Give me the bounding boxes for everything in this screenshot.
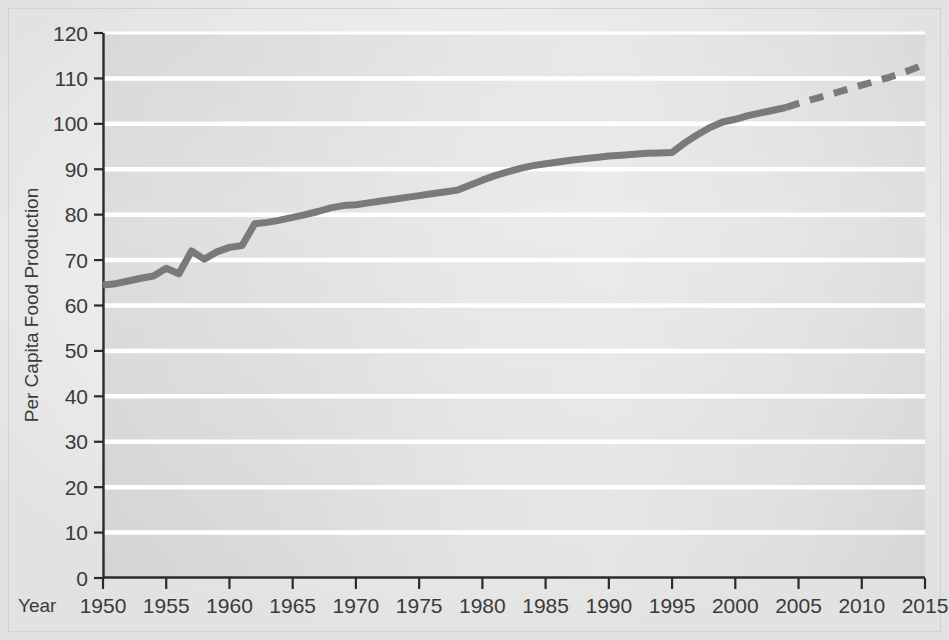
y-axis-tick-label: 120 [53, 22, 88, 45]
x-axis-tick-label: 1990 [585, 594, 632, 617]
x-axis-caption: Year [18, 595, 57, 616]
x-axis-tick-label: 1955 [143, 594, 190, 617]
y-axis-tick-label: 100 [53, 112, 88, 135]
x-axis-tick-label: 2005 [775, 594, 822, 617]
y-axis-tick-label: 30 [65, 430, 88, 453]
y-axis-tick-label: 70 [65, 249, 88, 272]
x-axis-tick-label: 2000 [712, 594, 759, 617]
y-axis-tick-label: 0 [76, 567, 88, 590]
y-axis-tick-label: 40 [65, 385, 88, 408]
y-axis-tick-label: 80 [65, 203, 88, 226]
x-axis-tick-label: 1975 [396, 594, 443, 617]
x-axis-ticks [103, 578, 925, 589]
y-axis-ticks [94, 33, 103, 578]
x-axis-tick-label: 1980 [459, 594, 506, 617]
y-axis-tick-labels: 0102030405060708090100110120 [53, 22, 88, 590]
x-axis-tick-label: 1995 [649, 594, 696, 617]
line-chart: 0102030405060708090100110120 19501955196… [0, 0, 949, 640]
y-axis-tick-label: 50 [65, 339, 88, 362]
y-axis-tick-label: 90 [65, 158, 88, 181]
x-axis-tick-label: 1965 [269, 594, 316, 617]
x-axis-tick-label: 1950 [80, 594, 127, 617]
y-axis-tick-label: 110 [55, 67, 88, 90]
y-axis-tick-label: 20 [65, 476, 88, 499]
x-axis-tick-labels: 1950195519601965197019751980198519901995… [80, 594, 949, 617]
y-axis-title: Per Capita Food Production [21, 188, 42, 422]
x-axis-tick-label: 1970 [333, 594, 380, 617]
figure-container: 0102030405060708090100110120 19501955196… [0, 0, 949, 640]
y-axis-tick-label: 60 [65, 294, 88, 317]
x-axis-tick-label: 2010 [838, 594, 885, 617]
x-axis-tick-label: 2015 [902, 594, 949, 617]
x-axis-tick-label: 1985 [522, 594, 569, 617]
y-axis-tick-label: 10 [65, 521, 88, 544]
x-axis-tick-label: 1960 [206, 594, 253, 617]
